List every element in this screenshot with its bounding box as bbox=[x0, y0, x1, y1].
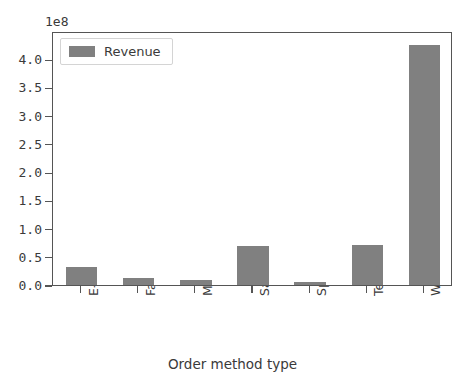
legend-label-revenue: Revenue bbox=[104, 44, 161, 59]
bar bbox=[237, 246, 268, 286]
bar bbox=[294, 282, 325, 285]
y-axis-tick-mark bbox=[45, 88, 52, 89]
y-axis-tick-label: 0.5 bbox=[6, 250, 42, 265]
plot-area bbox=[53, 33, 451, 285]
y-axis-tick-label: 1.5 bbox=[6, 193, 42, 208]
y-axis-tick-mark bbox=[45, 257, 52, 258]
y-axis-tick-mark bbox=[45, 285, 52, 286]
y-axis-tick-label: 1.0 bbox=[6, 222, 42, 237]
legend-swatch-revenue bbox=[69, 46, 95, 57]
y-axis-tick-label: 2.0 bbox=[6, 165, 42, 180]
bar-chart-figure: 1e8 0.00.51.01.52.02.53.03.54.0 E-mailFa… bbox=[0, 0, 465, 382]
x-axis-tick-mark bbox=[80, 286, 81, 293]
bar bbox=[66, 267, 97, 285]
y-axis-tick-label: 2.5 bbox=[6, 137, 42, 152]
x-axis-tick-mark bbox=[137, 286, 138, 293]
bar bbox=[180, 280, 211, 285]
plot-frame bbox=[52, 32, 452, 286]
y-axis-tick-mark bbox=[45, 229, 52, 230]
bar bbox=[409, 45, 440, 285]
bar bbox=[352, 245, 383, 285]
y-axis-tick-mark bbox=[45, 173, 52, 174]
y-axis-tick-label: 3.0 bbox=[6, 109, 42, 124]
y-axis-tick-mark bbox=[45, 60, 52, 61]
x-axis-tick-mark bbox=[423, 286, 424, 293]
y-axis-tick-label: 4.0 bbox=[6, 52, 42, 67]
y-axis-tick-mark bbox=[45, 201, 52, 202]
x-axis-tick-mark bbox=[251, 286, 252, 293]
x-axis-title: Order method type bbox=[0, 356, 465, 372]
x-axis-tick-mark bbox=[194, 286, 195, 293]
y-axis-offset-label: 1e8 bbox=[45, 14, 68, 29]
chart-legend: Revenue bbox=[60, 38, 173, 65]
x-axis-tick-mark bbox=[366, 286, 367, 293]
y-axis-tick-label: 3.5 bbox=[6, 80, 42, 95]
y-axis-tick-label: 0.0 bbox=[6, 278, 42, 293]
x-axis-tick-mark bbox=[309, 286, 310, 293]
y-axis-tick-mark bbox=[45, 116, 52, 117]
y-axis-tick-mark bbox=[45, 144, 52, 145]
bar bbox=[123, 278, 154, 285]
